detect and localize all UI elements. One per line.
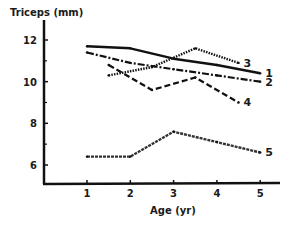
data-point [86,155,88,157]
data-point [216,64,218,66]
data-point [151,89,153,91]
series-line-5 [87,132,260,157]
data-point [216,74,218,76]
y-axis-label: Triceps (mm) [10,7,83,18]
axes: 68101212345 [23,20,280,199]
series-label-5: 5 [265,146,273,159]
data-point [129,155,131,157]
data-point [194,47,196,49]
data-point [129,62,131,64]
x-tick-label: 2 [127,188,134,199]
series-label-2: 2 [265,76,273,89]
data-point [107,74,109,76]
chart: 68101212345 12345 Triceps (mm) Age (yr) [0,0,304,230]
data-point [86,51,88,53]
data-point [172,130,174,132]
y-tick-label: 12 [23,35,37,46]
data-point [259,72,261,74]
x-tick-label: 5 [257,188,264,199]
x-tick-label: 4 [213,188,220,199]
x-tick-label: 1 [84,188,91,199]
series-label-4: 4 [244,96,252,109]
y-tick-label: 6 [30,160,37,171]
data-point [237,62,239,64]
data-point [237,101,239,103]
y-tick-label: 10 [23,77,37,88]
series-label-3: 3 [244,57,252,70]
x-axis-line [43,183,280,184]
series-layer: 12345 [86,45,273,159]
x-tick-label: 3 [170,188,177,199]
series-5: 5 [86,130,273,159]
data-point [151,66,153,68]
data-point [172,68,174,70]
data-point [194,76,196,78]
data-point [216,141,218,143]
x-axis-label: Age (yr) [150,205,196,216]
data-point [259,80,261,82]
data-point [259,151,261,153]
data-point [86,45,88,47]
data-point [107,64,109,66]
y-tick-label: 8 [30,118,37,129]
data-point [129,47,131,49]
